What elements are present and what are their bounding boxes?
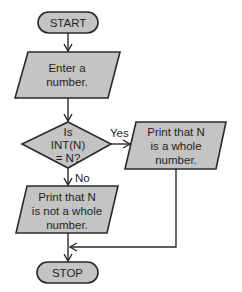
yes-line-2: is a whole <box>150 140 201 152</box>
yes-line-3: number. <box>155 154 197 166</box>
no-line-2: is not a whole <box>32 205 102 217</box>
decision-line-3: = N? <box>56 152 81 164</box>
no-line-3: number. <box>46 219 88 231</box>
no-output-box: Print that N is not a whole number. <box>16 186 118 233</box>
stop-label: STOP <box>52 267 83 279</box>
input-box: Enter a number. <box>15 52 120 98</box>
decision-line-2: INT(N) <box>51 139 86 151</box>
decision-line-1: Is <box>64 126 73 138</box>
no-label: No <box>75 172 90 184</box>
flowchart: START Enter a number. Is INT(N) = N? Yes… <box>0 0 242 292</box>
input-line-2: number. <box>46 76 88 88</box>
start-terminator: START <box>38 12 98 33</box>
yes-output-box: Print that N is a whole number. <box>125 122 226 169</box>
yes-label: Yes <box>110 127 129 139</box>
input-line-1: Enter a <box>48 62 86 74</box>
yes-line-1: Print that N <box>147 126 205 138</box>
no-line-1: Print that N <box>38 191 96 203</box>
start-label: START <box>50 17 87 29</box>
decision-diamond: Is INT(N) = N? <box>22 122 111 168</box>
stop-terminator: STOP <box>37 262 98 283</box>
